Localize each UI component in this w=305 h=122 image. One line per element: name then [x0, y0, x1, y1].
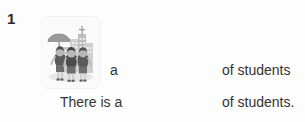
exercise-picture-card [42, 17, 100, 88]
students-walking-city-illustration-icon [42, 17, 100, 88]
prompt-tail-text: of students [222, 61, 291, 79]
prompt-blank-field[interactable] [126, 61, 220, 79]
answer-tail-text: of students. [222, 93, 294, 111]
prompt-article-text: a [110, 61, 118, 79]
exercise-number: 1 [7, 10, 15, 28]
answer-line: There is a of students. [60, 93, 304, 115]
answer-blank-field[interactable] [130, 93, 220, 111]
worksheet-page: 1 [0, 0, 305, 122]
answer-head-text: There is a [60, 93, 122, 111]
prompt-line: a of students [110, 61, 300, 81]
